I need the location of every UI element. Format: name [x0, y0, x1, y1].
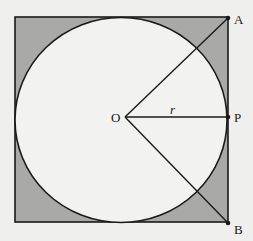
label-P: P: [234, 110, 241, 125]
label-A: A: [234, 12, 244, 27]
label-O: O: [111, 110, 120, 125]
diagram-canvas: O A P B r: [0, 0, 253, 241]
point-B-dot: [226, 221, 231, 226]
point-P-dot: [226, 115, 231, 120]
label-B: B: [234, 222, 243, 237]
point-A-dot: [226, 16, 231, 21]
inscribed-circle: [15, 18, 227, 223]
geometry-diagram: O A P B r: [0, 0, 253, 241]
